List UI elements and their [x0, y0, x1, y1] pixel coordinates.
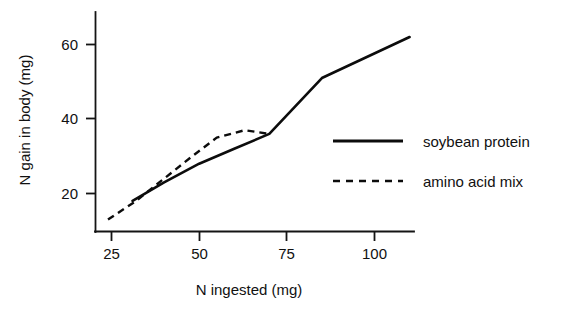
x-axis-title: N ingested (mg)	[196, 281, 303, 298]
x-tick-label-25: 25	[103, 245, 120, 262]
chart-background	[0, 0, 582, 312]
y-tick-label-20: 20	[61, 185, 78, 202]
x-tick-label-50: 50	[191, 245, 208, 262]
x-tick-label-75: 75	[278, 245, 295, 262]
line-chart: 60 40 20 25 50 75 100 N ingested (mg) N …	[0, 0, 582, 312]
y-axis-title: N gain in body (mg)	[16, 55, 33, 186]
x-tick-label-100: 100	[362, 245, 387, 262]
legend-label-soybean-protein: soybean protein	[423, 133, 530, 150]
legend-label-amino-acid-mix: amino acid mix	[423, 173, 524, 190]
y-tick-label-60: 60	[61, 36, 78, 53]
y-tick-label-40: 40	[61, 110, 78, 127]
